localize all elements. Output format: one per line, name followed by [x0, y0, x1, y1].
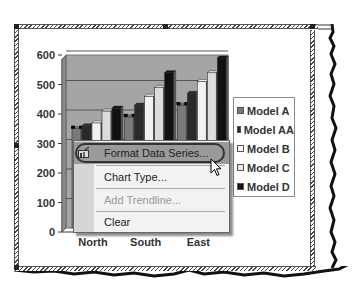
- legend-swatch: [237, 145, 244, 152]
- mouse-pointer-icon: [210, 158, 224, 178]
- legend-item-model-aa[interactable]: Model AA: [237, 120, 294, 139]
- y-tick-label: 400: [37, 108, 55, 120]
- menu-item-label: Chart Type...: [104, 171, 167, 183]
- x-tick-label: South: [130, 236, 161, 248]
- y-tick-label: 0: [49, 226, 55, 238]
- legend-item-model-a[interactable]: Model A: [237, 101, 294, 120]
- legend-label: Model AA: [244, 124, 294, 136]
- y-tick-label: 300: [37, 138, 55, 150]
- legend-swatch: [237, 164, 244, 171]
- legend-item-model-c[interactable]: Model C: [237, 158, 294, 177]
- series-selection-handle: [71, 126, 75, 129]
- legend-label: Model B: [247, 143, 290, 155]
- legend-item-model-d[interactable]: Model D: [237, 177, 294, 196]
- y-tick-label: 100: [37, 197, 55, 209]
- series-selection-handle: [176, 102, 180, 105]
- x-tick-label: East: [187, 236, 211, 248]
- plot-side-wall: [62, 55, 66, 232]
- menu-item-format-data-series[interactable]: Format Data Series...: [74, 142, 229, 164]
- menu-item-label: Clear: [104, 216, 130, 228]
- y-tick-label: 500: [37, 79, 55, 91]
- highlight-callout-oval: [75, 143, 225, 163]
- y-tick-label: 600: [37, 49, 55, 61]
- legend-label: Model A: [247, 105, 289, 117]
- legend-label: Model D: [247, 181, 290, 193]
- y-tick-label: 200: [37, 167, 55, 179]
- legend-swatch: [237, 107, 244, 114]
- menu-item-chart-type[interactable]: Chart Type...: [74, 166, 229, 188]
- legend-swatch: [237, 126, 241, 133]
- series-selection-handle: [124, 114, 128, 117]
- x-tick-label: North: [78, 236, 108, 248]
- context-menu: Format Data Series... Chart Type... Add …: [73, 140, 230, 233]
- legend-label: Model C: [247, 162, 290, 174]
- menu-item-label: Add Trendline...: [104, 194, 181, 206]
- menu-item-clear[interactable]: Clear: [74, 211, 229, 233]
- legend-item-model-b[interactable]: Model B: [237, 139, 294, 158]
- chart-legend[interactable]: Model A Model AA Model B Model C Model D: [233, 97, 295, 197]
- menu-item-add-trendline: Add Trendline...: [74, 189, 229, 211]
- legend-swatch: [237, 183, 244, 190]
